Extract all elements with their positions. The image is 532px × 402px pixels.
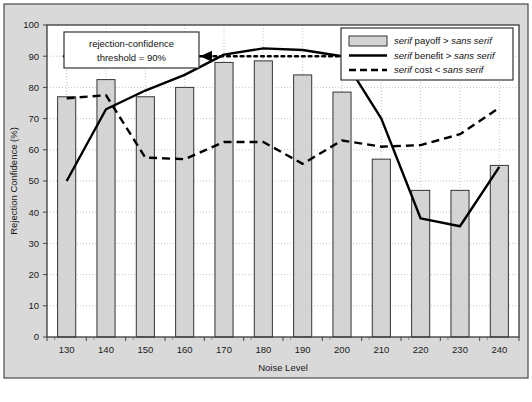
rejection-confidence-chart: 0102030405060708090100Rejection Confiden…: [0, 0, 532, 402]
bar-190: [294, 75, 312, 337]
annotation-line-2: threshold = 90%: [97, 52, 166, 63]
y-tick-label-90: 90: [28, 51, 39, 62]
x-tick-label-210: 210: [373, 344, 389, 355]
x-tick-label-200: 200: [334, 344, 350, 355]
x-tick-label-190: 190: [295, 344, 311, 355]
x-tick-label-220: 220: [413, 344, 429, 355]
bar-210: [372, 159, 390, 337]
bar-180: [254, 61, 272, 337]
y-tick-label-80: 80: [28, 82, 39, 93]
y-tick-label-100: 100: [23, 19, 39, 30]
chart-figure: 0102030405060708090100Rejection Confiden…: [0, 0, 532, 402]
bar-220: [412, 190, 430, 337]
y-tick-label-50: 50: [28, 175, 39, 186]
bar-230: [451, 190, 469, 337]
legend-marker-bar-swatch: [349, 36, 387, 46]
x-tick-label-240: 240: [491, 344, 507, 355]
bar-160: [176, 87, 194, 337]
y-tick-label-70: 70: [28, 113, 39, 124]
y-tick-label-20: 20: [28, 269, 39, 280]
x-tick-label-170: 170: [216, 344, 232, 355]
y-tick-label-0: 0: [34, 331, 39, 342]
x-tick-label-160: 160: [177, 344, 193, 355]
annotation-line-1: rejection-confidence: [89, 38, 174, 49]
legend-label-1: serif benefit > sans serif: [394, 50, 496, 61]
bar-140: [97, 80, 115, 337]
x-tick-label-140: 140: [98, 344, 114, 355]
x-tick-label-180: 180: [255, 344, 271, 355]
legend-label-0: serif payoff > sans serif: [394, 35, 493, 46]
y-tick-label-10: 10: [28, 300, 39, 311]
bar-130: [58, 97, 76, 337]
legend: serif payoff > sans serifserif benefit >…: [341, 28, 513, 80]
x-tick-label-230: 230: [452, 344, 468, 355]
legend-label-2: serif cost < sans serif: [394, 64, 485, 75]
x-tick-label-130: 130: [59, 344, 75, 355]
threshold-annotation: rejection-confidencethreshold = 90%: [64, 32, 212, 68]
y-tick-label-30: 30: [28, 238, 39, 249]
y-tick-label-40: 40: [28, 207, 39, 218]
bar-150: [136, 97, 154, 337]
y-axis-title: Rejection Confidence (%): [8, 127, 19, 235]
x-tick-label-150: 150: [137, 344, 153, 355]
x-axis-title: Noise Level: [258, 362, 308, 373]
bar-240: [490, 165, 508, 337]
y-tick-label-60: 60: [28, 144, 39, 155]
bar-170: [215, 62, 233, 337]
bar-200: [333, 92, 351, 337]
